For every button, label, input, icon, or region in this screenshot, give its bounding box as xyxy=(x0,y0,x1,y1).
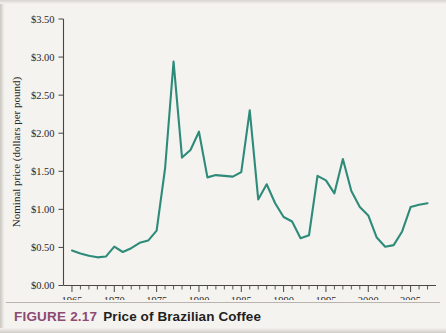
y-tick-label: $3.00 xyxy=(31,52,55,63)
caption-divider xyxy=(6,302,440,303)
line-chart: Nominal price (dollars per pound) $0.00$… xyxy=(0,0,446,300)
figure-number: FIGURE 2.17 xyxy=(14,309,97,324)
y-tick-label: $2.50 xyxy=(31,90,55,101)
y-axis-title: Nominal price (dollars per pound) xyxy=(10,77,23,228)
coffee-price-line xyxy=(72,62,428,258)
x-axis-ticks: 196519701975198019851990199520002005 xyxy=(61,286,427,301)
y-tick-label: $3.50 xyxy=(31,14,55,25)
figure-page: Nominal price (dollars per pound) $0.00$… xyxy=(0,0,446,333)
y-tick-label: $1.50 xyxy=(31,166,55,177)
y-tick-label: $1.00 xyxy=(31,204,55,215)
y-tick-label: $0.50 xyxy=(31,242,55,253)
y-axis-ticks: $0.00$0.50$1.00$1.50$2.00$2.50$3.00$3.50 xyxy=(31,14,64,292)
figure-title: Price of Brazilian Coffee xyxy=(103,309,261,324)
figure-caption: FIGURE 2.17 Price of Brazilian Coffee xyxy=(0,300,446,333)
chart-svg: Nominal price (dollars per pound) $0.00$… xyxy=(0,0,446,300)
y-tick-label: $0.00 xyxy=(31,280,55,291)
y-tick-label: $2.00 xyxy=(31,128,55,139)
